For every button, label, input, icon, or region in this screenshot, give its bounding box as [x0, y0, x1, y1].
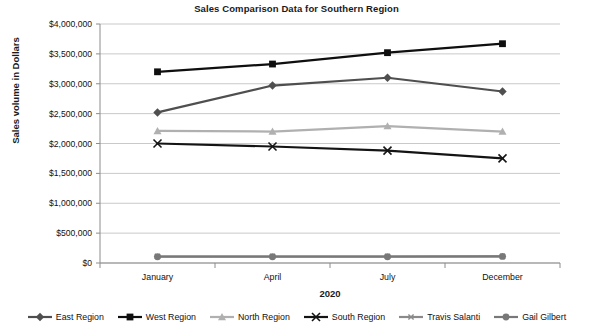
data-point [153, 108, 161, 116]
y-tick-label: $2,500,000 [49, 109, 92, 119]
legend-point [408, 314, 415, 319]
y-tick-label: $2,000,000 [49, 139, 92, 149]
legend-item-east-region[interactable]: East Region [27, 311, 104, 323]
legend-marker-icon [398, 311, 424, 323]
series-south-region [154, 140, 507, 163]
chart-container: Sales Comparison Data for Southern Regio… [0, 0, 593, 335]
plot-area: $4,000,000$3,500,000$3,000,000$2,500,000… [0, 0, 593, 300]
y-tick-label: $3,500,000 [49, 49, 92, 59]
series-line [158, 144, 503, 159]
data-point [383, 74, 391, 82]
series-line [158, 126, 503, 131]
series-north-region [154, 122, 507, 135]
legend-item-label: East Region [56, 312, 104, 322]
legend-item-travis-salanti[interactable]: Travis Salanti [398, 311, 480, 323]
data-point [154, 68, 161, 75]
legend-point [126, 314, 133, 321]
y-tick-label: $0 [82, 258, 92, 268]
legend-item-label: South Region [332, 312, 385, 322]
x-tick-label: April [264, 272, 282, 282]
legend-point [503, 314, 510, 321]
data-point [268, 81, 276, 89]
series-line [158, 78, 503, 113]
series-line [158, 44, 503, 72]
data-point [498, 87, 506, 95]
legend-marker-icon [303, 311, 329, 323]
y-tick-label: $1,500,000 [49, 168, 92, 178]
data-point [269, 253, 276, 260]
y-tick-label: $4,000,000 [49, 19, 92, 29]
legend-item-south-region[interactable]: South Region [303, 311, 385, 323]
x-axis-title: 2020 [100, 288, 560, 299]
legend-marker-icon [209, 311, 235, 323]
legend-marker-icon [493, 311, 519, 323]
x-tick-label: January [142, 272, 174, 282]
legend-marker-icon [117, 311, 143, 323]
data-point [154, 253, 161, 260]
series-west-region [154, 40, 506, 75]
legend-item-label: North Region [238, 312, 290, 322]
x-tick-label: December [482, 272, 523, 282]
data-point [499, 40, 506, 47]
data-point [384, 253, 391, 260]
legend-item-north-region[interactable]: North Region [209, 311, 290, 323]
y-tick-label: $500,000 [56, 228, 92, 238]
legend-item-west-region[interactable]: West Region [117, 311, 196, 323]
data-point [499, 253, 506, 260]
y-tick-label: $1,000,000 [49, 198, 92, 208]
y-tick-label: $3,000,000 [49, 79, 92, 89]
chart-legend: East RegionWest RegionNorth RegionSouth … [0, 311, 593, 323]
legend-item-label: Travis Salanti [427, 312, 480, 322]
data-point [269, 61, 276, 68]
series-east-region [153, 74, 506, 117]
series-gail-gilbert [154, 253, 506, 260]
legend-point [36, 313, 44, 321]
x-tick-label: July [380, 272, 396, 282]
legend-item-label: Gail Gilbert [522, 312, 566, 322]
data-point [384, 49, 391, 56]
legend-item-label: West Region [146, 312, 196, 322]
legend-item-gail-gilbert[interactable]: Gail Gilbert [493, 311, 566, 323]
legend-marker-icon [27, 311, 53, 323]
